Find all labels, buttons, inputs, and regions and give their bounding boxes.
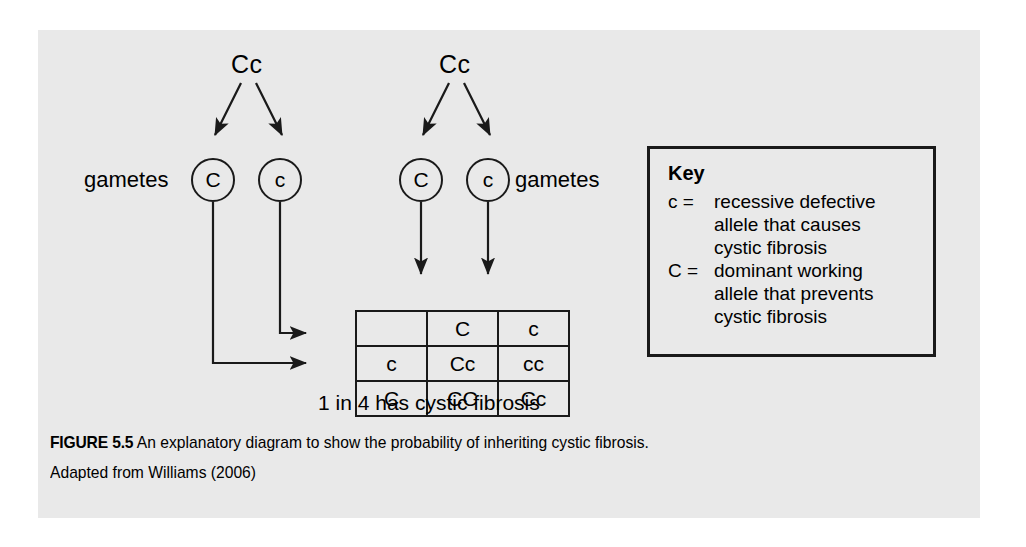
gamete-right-C: C	[399, 158, 443, 202]
arrow-parent-left-to-gamete-C	[215, 83, 241, 135]
punnett-column-header-1: c	[498, 311, 569, 346]
diagram-stage: Cc Cc gametes C c C c gametes C c c Cc	[38, 30, 980, 415]
gamete-left-C: C	[191, 158, 235, 202]
key-entry-dominant: C =dominant workingallele that preventsc…	[668, 259, 874, 328]
key-entry-recessive-line-2: cystic fibrosis	[714, 237, 827, 258]
gamete-left-c-label: c	[275, 169, 286, 190]
punnett-row-0: c Cc cc	[356, 346, 569, 381]
result-text: 1 in 4 has cystic fibrosis	[318, 392, 540, 413]
key-entry-dominant-line-0: dominant working	[714, 260, 863, 281]
punnett-cell-0-0: Cc	[427, 346, 498, 381]
gametes-label-left: gametes	[84, 169, 168, 191]
key-entry-recessive-line-0: recessive defective	[714, 191, 876, 212]
key-entry-dominant-line-2: cystic fibrosis	[714, 306, 827, 327]
arrow-gamete-left-c-to-row-c	[280, 202, 306, 333]
key-box: Key c =recessive defectiveallele that ca…	[647, 146, 936, 357]
gametes-label-right: gametes	[515, 169, 599, 191]
punnett-header-row: C c	[356, 311, 569, 346]
punnett-row-header-0: c	[356, 346, 427, 381]
caption-figure-label: FIGURE 5.5	[50, 433, 133, 452]
gamete-left-c: c	[258, 158, 302, 202]
arrow-parent-left-to-gamete-c	[256, 83, 282, 135]
gamete-left-C-label: C	[205, 169, 220, 190]
key-entry-recessive-line-1: allele that causes	[714, 214, 861, 235]
caption-title-line: FIGURE 5.5 An explanatory diagram to sho…	[50, 428, 895, 458]
key-entry-dominant-symbol: C =	[668, 259, 714, 282]
arrow-parent-right-to-gamete-c	[464, 83, 490, 135]
key-entry-dominant-line-1: allele that prevents	[714, 283, 874, 304]
punnett-cell-0-1: cc	[498, 346, 569, 381]
gamete-right-c: c	[466, 158, 510, 202]
arrow-gamete-left-C-to-row-C	[213, 202, 306, 363]
figure-panel: Cc Cc gametes C c C c gametes C c c Cc	[38, 30, 980, 518]
arrow-parent-right-to-gamete-C	[423, 83, 449, 135]
gamete-right-C-label: C	[413, 169, 428, 190]
key-entry-recessive: c =recessive defectiveallele that causes…	[668, 190, 876, 259]
key-entry-recessive-symbol: c =	[668, 190, 714, 213]
punnett-corner-blank	[356, 311, 427, 346]
caption-title-text: An explanatory diagram to show the proba…	[137, 433, 649, 452]
gamete-right-c-label: c	[483, 169, 494, 190]
key-title: Key	[668, 163, 705, 183]
caption-source-line: Adapted from Williams (2006)	[50, 458, 895, 488]
figure-caption: FIGURE 5.5 An explanatory diagram to sho…	[50, 428, 968, 488]
parent-genotype-left: Cc	[231, 52, 263, 77]
punnett-column-header-0: C	[427, 311, 498, 346]
parent-genotype-right: Cc	[439, 52, 471, 77]
